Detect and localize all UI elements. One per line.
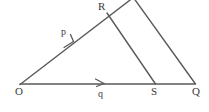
vertex-label-Q: Q [192, 86, 200, 97]
segment-O-apex [20, 0, 134, 85]
segment-apex-Q [133, 0, 196, 84]
geometry-figure: O Q S R p q [0, 0, 209, 112]
figure-canvas [0, 0, 209, 112]
vector-q-arrowhead [96, 79, 105, 87]
vector-label-q: q [98, 89, 103, 99]
vertex-label-R: R [98, 1, 105, 12]
vector-label-p: p [61, 27, 66, 37]
vertex-label-O: O [15, 86, 23, 97]
segment-cevian-RS [107, 13, 156, 84]
vertex-label-S: S [151, 86, 157, 97]
